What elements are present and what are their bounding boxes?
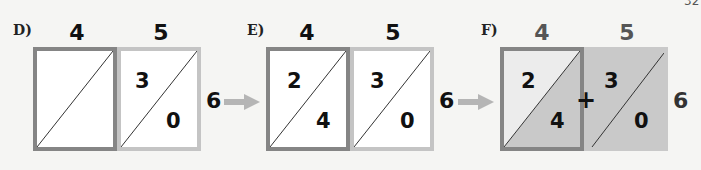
- diagonal-line: [270, 51, 346, 147]
- column-header: 4: [287, 20, 327, 45]
- row-header: 6: [206, 88, 221, 113]
- arrow-right-icon: [224, 94, 260, 110]
- plus-operator: +: [576, 86, 596, 114]
- row-header: 6: [673, 88, 688, 113]
- cell-tens-digit: 3: [370, 69, 385, 93]
- lattice-cell: 2 4: [266, 47, 350, 151]
- cell-tens-digit: 3: [135, 69, 150, 93]
- row-header: 6: [439, 88, 454, 113]
- panel-label: F): [481, 22, 498, 38]
- cell-tens-digit: 3: [604, 69, 619, 93]
- panel-label: E): [247, 22, 264, 38]
- lattice-cell: 3 0: [350, 47, 434, 151]
- column-header: 5: [607, 20, 647, 45]
- page-corner-mark: 32: [684, 0, 699, 8]
- cell-tens-digit: 2: [521, 69, 536, 93]
- diagonal-line: [588, 51, 664, 147]
- column-header: 4: [522, 20, 562, 45]
- diagonal-line: [121, 51, 197, 147]
- cell-ones-digit: 0: [400, 109, 415, 133]
- cell-tens-digit: 2: [287, 69, 302, 93]
- column-header: 5: [141, 20, 181, 45]
- diagonal-line: [504, 51, 580, 147]
- cell-ones-digit: 0: [166, 109, 181, 133]
- cell-ones-digit: 0: [634, 109, 649, 133]
- diagonal-line: [354, 51, 430, 147]
- lattice-cell: [33, 47, 117, 151]
- lattice-cell-shaded: 3 0: [584, 47, 668, 151]
- diagonal-line: [37, 51, 113, 147]
- column-header: 4: [57, 20, 97, 45]
- cell-ones-digit: 4: [316, 109, 331, 133]
- column-header: 5: [373, 20, 413, 45]
- lattice-cell: 3 0: [117, 47, 201, 151]
- arrow-right-icon: [458, 94, 494, 110]
- cell-ones-digit: 4: [550, 109, 565, 133]
- lattice-cell-shaded: 2 4: [500, 47, 584, 151]
- panel-label: D): [13, 22, 32, 38]
